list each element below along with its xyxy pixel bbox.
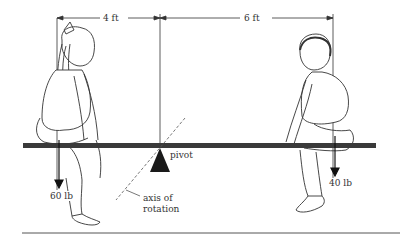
axis-label-line1: axis of [141,193,175,203]
left-distance-label: 4 ft [101,13,121,23]
seesaw-diagram [0,0,403,239]
axis-leader-line [126,190,140,196]
right-force-arrow [331,136,339,176]
pivot-triangle [150,148,170,172]
seesaw-board [23,143,376,148]
right-weight-label: 40 lb [327,178,354,188]
right-distance-label: 6 ft [242,13,262,23]
axis-label-line2: rotation [141,204,181,214]
pivot-label: pivot [168,150,195,160]
dimension-lines [57,14,333,190]
left-weight-label: 60 lb [48,191,75,201]
